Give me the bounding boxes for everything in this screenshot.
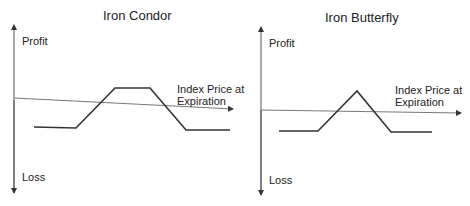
profit-label: Profit [269,37,295,50]
diagram-title: Iron Condor [103,8,172,23]
profit-label: Profit [22,35,48,48]
x-axis-label-line2: Expiration [177,95,226,108]
loss-label: Loss [269,174,292,187]
x-axis [261,110,461,113]
diagram-title: Iron Butterfly [325,10,399,25]
loss-label: Loss [22,171,45,184]
x-axis-label-line2: Expiration [395,96,444,109]
